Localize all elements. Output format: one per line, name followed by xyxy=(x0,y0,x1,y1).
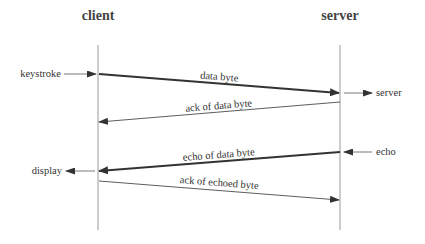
sequence-diagram: client server keystroke data byte server… xyxy=(0,0,425,244)
message-ack-of-echoed-byte: ack of echoed byte xyxy=(99,174,339,200)
server-output-label: server xyxy=(376,87,402,98)
ack-data-byte-label: ack of data byte xyxy=(185,97,253,113)
message-echo-of-data-byte: echo of data byte xyxy=(99,146,340,171)
message-data-byte: data byte xyxy=(99,70,339,93)
display-event: display xyxy=(32,165,95,176)
keystroke-event: keystroke xyxy=(20,68,96,79)
participant-client-label: client xyxy=(82,8,115,23)
server-output-event: server xyxy=(344,87,402,98)
keystroke-label: keystroke xyxy=(20,68,61,79)
echo-event: echo xyxy=(344,146,396,157)
echo-label: echo xyxy=(376,146,396,157)
data-byte-label: data byte xyxy=(200,70,239,84)
message-ack-of-data-byte: ack of data byte xyxy=(99,97,340,122)
participant-server-label: server xyxy=(321,8,358,23)
display-label: display xyxy=(32,165,63,176)
